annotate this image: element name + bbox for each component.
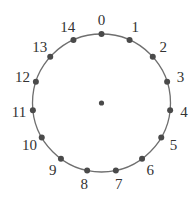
node-dot [150,54,156,60]
node-10: 10 [22,135,45,153]
node-label: 2 [159,39,167,55]
node-0: 0 [98,12,106,37]
node-5: 5 [158,135,177,153]
node-dot [33,79,39,85]
node-label: 4 [180,104,188,120]
node-label: 12 [15,69,30,85]
node-6: 6 [139,156,154,178]
node-dot [167,107,173,113]
node-dot [113,167,119,173]
node-dot [158,135,164,141]
node-12: 12 [15,69,39,85]
node-8: 8 [80,167,90,192]
node-label: 5 [170,137,178,153]
node-dot [164,79,170,85]
node-label: 1 [132,19,140,35]
node-7: 7 [113,167,123,192]
node-dot [127,37,133,43]
node-dot [70,37,76,43]
node-2: 2 [150,39,167,59]
node-label: 6 [147,162,155,178]
node-1: 1 [127,19,139,43]
node-dot [30,107,36,113]
node-dot [139,156,145,162]
node-14: 14 [60,19,76,43]
node-label: 10 [22,137,37,153]
node-label: 14 [60,19,76,35]
node-3: 3 [164,69,184,85]
circle-diagram: 01234567891011121314 [0,0,194,201]
node-dot [99,31,105,37]
node-9: 9 [49,156,64,178]
node-dot [84,167,90,173]
node-13: 13 [32,39,53,59]
node-label: 7 [115,176,123,192]
node-label: 11 [12,104,26,120]
node-label: 13 [32,39,47,55]
node-label: 0 [98,12,106,28]
node-label: 8 [80,176,88,192]
node-dot [47,54,53,60]
diagram-canvas: 01234567891011121314 [0,0,194,201]
node-dot [58,156,64,162]
node-label: 9 [49,162,57,178]
center-dot [99,100,104,105]
node-dot [39,135,45,141]
node-label: 3 [177,69,185,85]
